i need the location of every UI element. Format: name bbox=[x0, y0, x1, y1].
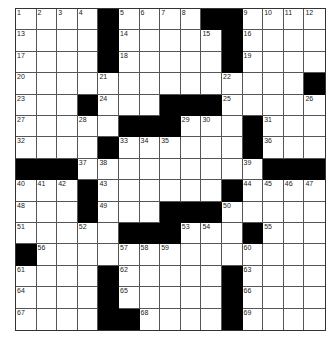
grid-cell[interactable]: 26 bbox=[304, 95, 325, 116]
grid-cell[interactable] bbox=[304, 52, 325, 73]
grid-cell[interactable]: 61 bbox=[16, 266, 37, 287]
grid-cell[interactable] bbox=[284, 244, 305, 265]
grid-cell[interactable] bbox=[222, 159, 243, 180]
grid-cell[interactable]: 30 bbox=[201, 116, 222, 137]
grid-cell[interactable]: 21 bbox=[98, 73, 119, 94]
grid-cell[interactable] bbox=[222, 244, 243, 265]
grid-cell[interactable] bbox=[160, 30, 181, 51]
grid-cell[interactable]: 69 bbox=[243, 309, 264, 330]
grid-cell[interactable]: 16 bbox=[243, 30, 264, 51]
grid-cell[interactable]: 9 bbox=[243, 9, 264, 30]
grid-cell[interactable] bbox=[37, 137, 58, 158]
grid-cell[interactable] bbox=[78, 30, 99, 51]
grid-cell[interactable] bbox=[140, 287, 161, 308]
grid-cell[interactable]: 27 bbox=[16, 116, 37, 137]
grid-cell[interactable] bbox=[284, 73, 305, 94]
grid-cell[interactable] bbox=[222, 116, 243, 137]
grid-cell[interactable]: 3 bbox=[57, 9, 78, 30]
grid-cell[interactable] bbox=[304, 116, 325, 137]
grid-cell[interactable] bbox=[201, 309, 222, 330]
grid-cell[interactable]: 20 bbox=[16, 73, 37, 94]
grid-cell[interactable] bbox=[160, 287, 181, 308]
grid-cell[interactable] bbox=[222, 223, 243, 244]
grid-cell[interactable] bbox=[140, 30, 161, 51]
grid-cell[interactable] bbox=[160, 309, 181, 330]
grid-cell[interactable]: 43 bbox=[98, 180, 119, 201]
grid-cell[interactable] bbox=[57, 95, 78, 116]
grid-cell[interactable]: 18 bbox=[119, 52, 140, 73]
grid-cell[interactable] bbox=[181, 30, 202, 51]
grid-cell[interactable] bbox=[78, 244, 99, 265]
grid-cell[interactable]: 47 bbox=[304, 180, 325, 201]
grid-cell[interactable] bbox=[57, 30, 78, 51]
grid-cell[interactable]: 10 bbox=[263, 9, 284, 30]
grid-cell[interactable]: 29 bbox=[181, 116, 202, 137]
grid-cell[interactable]: 34 bbox=[140, 137, 161, 158]
grid-cell[interactable]: 40 bbox=[16, 180, 37, 201]
grid-cell[interactable]: 54 bbox=[201, 223, 222, 244]
grid-cell[interactable] bbox=[140, 202, 161, 223]
grid-cell[interactable]: 36 bbox=[263, 137, 284, 158]
grid-cell[interactable]: 65 bbox=[119, 287, 140, 308]
grid-cell[interactable] bbox=[57, 223, 78, 244]
grid-cell[interactable]: 7 bbox=[160, 9, 181, 30]
grid-cell[interactable] bbox=[37, 223, 58, 244]
grid-cell[interactable]: 66 bbox=[243, 287, 264, 308]
grid-cell[interactable]: 49 bbox=[98, 202, 119, 223]
grid-cell[interactable]: 14 bbox=[119, 30, 140, 51]
grid-cell[interactable] bbox=[181, 159, 202, 180]
grid-cell[interactable] bbox=[263, 73, 284, 94]
grid-cell[interactable] bbox=[98, 244, 119, 265]
grid-cell[interactable] bbox=[140, 180, 161, 201]
grid-cell[interactable]: 63 bbox=[243, 266, 264, 287]
grid-cell[interactable] bbox=[243, 95, 264, 116]
grid-cell[interactable] bbox=[284, 30, 305, 51]
grid-cell[interactable] bbox=[119, 95, 140, 116]
grid-cell[interactable]: 19 bbox=[243, 52, 264, 73]
grid-cell[interactable]: 37 bbox=[78, 159, 99, 180]
grid-cell[interactable]: 11 bbox=[284, 9, 305, 30]
grid-cell[interactable]: 25 bbox=[222, 95, 243, 116]
grid-cell[interactable] bbox=[284, 137, 305, 158]
grid-cell[interactable] bbox=[119, 73, 140, 94]
grid-cell[interactable]: 38 bbox=[98, 159, 119, 180]
grid-cell[interactable] bbox=[222, 137, 243, 158]
grid-cell[interactable]: 5 bbox=[119, 9, 140, 30]
grid-cell[interactable] bbox=[304, 266, 325, 287]
grid-cell[interactable] bbox=[57, 73, 78, 94]
grid-cell[interactable] bbox=[160, 159, 181, 180]
grid-cell[interactable] bbox=[201, 73, 222, 94]
grid-cell[interactable] bbox=[160, 52, 181, 73]
grid-cell[interactable] bbox=[160, 73, 181, 94]
grid-cell[interactable]: 46 bbox=[284, 180, 305, 201]
grid-cell[interactable] bbox=[284, 202, 305, 223]
grid-cell[interactable] bbox=[243, 202, 264, 223]
grid-cell[interactable] bbox=[201, 180, 222, 201]
grid-cell[interactable] bbox=[263, 202, 284, 223]
grid-cell[interactable]: 53 bbox=[181, 223, 202, 244]
grid-cell[interactable]: 24 bbox=[98, 95, 119, 116]
grid-cell[interactable]: 68 bbox=[140, 309, 161, 330]
grid-cell[interactable]: 45 bbox=[263, 180, 284, 201]
grid-cell[interactable]: 2 bbox=[37, 9, 58, 30]
grid-cell[interactable] bbox=[57, 137, 78, 158]
grid-cell[interactable] bbox=[263, 52, 284, 73]
grid-cell[interactable] bbox=[181, 73, 202, 94]
grid-cell[interactable]: 6 bbox=[140, 9, 161, 30]
grid-cell[interactable] bbox=[201, 244, 222, 265]
grid-cell[interactable] bbox=[57, 287, 78, 308]
grid-cell[interactable]: 1 bbox=[16, 9, 37, 30]
grid-cell[interactable] bbox=[263, 309, 284, 330]
grid-cell[interactable]: 64 bbox=[16, 287, 37, 308]
grid-cell[interactable] bbox=[140, 95, 161, 116]
grid-cell[interactable] bbox=[37, 266, 58, 287]
grid-cell[interactable] bbox=[181, 266, 202, 287]
grid-cell[interactable]: 58 bbox=[140, 244, 161, 265]
grid-cell[interactable]: 39 bbox=[243, 159, 264, 180]
grid-cell[interactable] bbox=[57, 202, 78, 223]
grid-cell[interactable] bbox=[78, 287, 99, 308]
grid-cell[interactable]: 35 bbox=[160, 137, 181, 158]
grid-cell[interactable] bbox=[263, 30, 284, 51]
grid-cell[interactable] bbox=[98, 223, 119, 244]
grid-cell[interactable] bbox=[263, 244, 284, 265]
